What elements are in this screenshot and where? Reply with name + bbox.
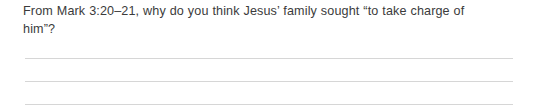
worksheet-question-block: From Mark 3:20–21, why do you think Jesu… <box>0 0 537 109</box>
answer-write-line-3[interactable] <box>25 104 513 105</box>
answer-write-line-2[interactable] <box>25 81 513 82</box>
answer-write-line-1[interactable] <box>25 58 513 59</box>
question-prompt-text: From Mark 3:20–21, why do you think Jesu… <box>23 2 483 38</box>
